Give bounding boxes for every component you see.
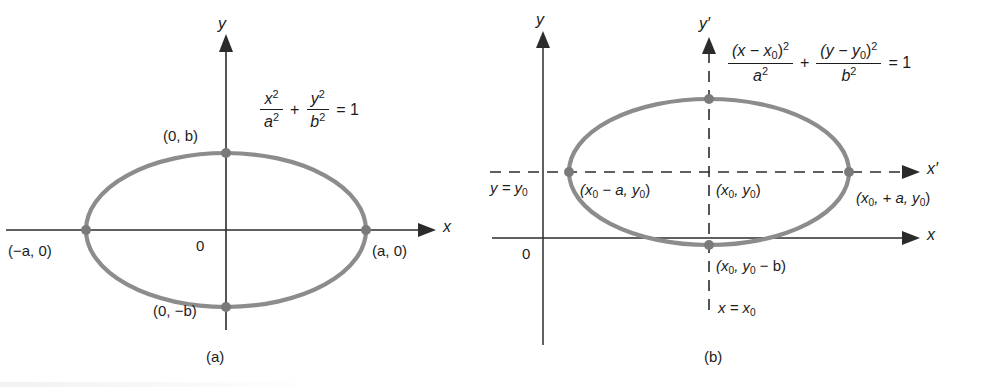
numerator-y-y0-squared: (y − y0)2: [816, 40, 881, 64]
origin-label: 0: [522, 246, 530, 261]
point-right-vertex: [844, 167, 854, 177]
guide-x-subscript: 0: [750, 307, 756, 318]
c-close: ): [756, 181, 761, 198]
var-y: y: [311, 90, 319, 107]
label-left-vertex: (−a, 0): [8, 243, 52, 258]
bv-close: − b): [756, 257, 786, 274]
xprime-axis-label: x′: [927, 161, 938, 177]
bv-part1: (x: [716, 257, 729, 274]
exponent-2: 2: [319, 88, 325, 100]
point-right-vertex: [361, 225, 371, 235]
lv-part1: (x: [580, 181, 593, 198]
panel-a-graphic: [0, 0, 490, 387]
exponent-2: 2: [319, 111, 325, 123]
fraction-x-term: (x − x0)2 a2: [728, 40, 793, 85]
denominator-b2: b2: [306, 110, 329, 131]
panel-b-caption: (b): [704, 349, 722, 364]
fraction-x-over-a: x2 a2: [260, 88, 283, 132]
var-a: a: [264, 113, 273, 130]
bv-mid: , y: [734, 257, 750, 274]
num2-text: (y − y: [820, 42, 860, 59]
label-center: (x0, y0): [716, 182, 761, 200]
origin-label: 0: [196, 238, 204, 253]
var-b: b: [310, 113, 319, 130]
fraction-y-term: (y − y0)2 b2: [816, 40, 881, 85]
page-edge-artifact: [0, 382, 300, 387]
panel-a-equation: x2 a2 + y2 b2 = 1: [258, 88, 359, 132]
point-left-vertex: [564, 167, 574, 177]
panel-b: y x y′ x′ 0 y = y0 x = x0 (x0 − a, y0) (…: [490, 0, 981, 387]
den1-sup: 2: [762, 65, 768, 77]
fraction-y-over-b: y2 b2: [306, 88, 329, 132]
yprime-axis-label: y′: [699, 16, 710, 32]
label-left-vertex: (x0 − a, y0): [580, 182, 650, 200]
numerator-y2: y2: [307, 88, 329, 110]
label-bottom-vertex: (0, −b): [153, 303, 197, 318]
label-right-vertex: (a, 0): [372, 243, 407, 258]
equals-one: = 1: [336, 101, 359, 119]
denominator-a2: a2: [260, 110, 283, 131]
point-top-vertex: [221, 148, 231, 158]
point-bottom-vertex: [704, 240, 714, 250]
guide-x-text: x = x: [718, 299, 750, 316]
plus-operator: +: [800, 54, 809, 72]
equals-one: = 1: [888, 54, 911, 72]
x-axis-arrowhead: [902, 231, 920, 245]
label-right-vertex: (x0, + a, y0): [856, 190, 930, 208]
ellipse-figure-root: y x 0 (0, b) (0, −b) (−a, 0) (a, 0) x2 a…: [0, 0, 981, 387]
label-vertical-guide: x = x0: [718, 300, 756, 318]
rv-part1: (x: [856, 189, 869, 206]
y-axis-label: y: [218, 16, 226, 32]
panel-b-equation: (x − x0)2 a2 + (y − y0)2 b2 = 1: [726, 40, 911, 85]
c-part1: (x: [716, 181, 729, 198]
lv-mid: − a, y: [598, 181, 639, 198]
plus-operator: +: [290, 101, 299, 119]
y-axis-arrowhead: [219, 34, 233, 52]
label-horizontal-guide: y = y0: [490, 180, 528, 198]
numerator-x2: x2: [260, 88, 282, 110]
denominator-b2: b2: [837, 64, 860, 85]
lv-close: ): [645, 181, 650, 198]
label-top-vertex: (0, b): [163, 128, 198, 143]
y-axis-label: y: [536, 12, 544, 28]
exponent-2: 2: [273, 111, 279, 123]
den1-text: a: [753, 67, 762, 84]
guide-y-subscript: 0: [522, 187, 528, 198]
exponent-2: 2: [272, 88, 278, 100]
den2-sup: 2: [850, 65, 856, 77]
x-axis-arrowhead: [418, 223, 436, 237]
y-axis-arrowhead: [536, 31, 550, 48]
x-axis-label: x: [927, 227, 935, 243]
point-left-vertex: [81, 225, 91, 235]
x-axis-label: x: [443, 219, 451, 235]
guide-y-text: y = y: [490, 179, 522, 196]
point-top-vertex: [704, 94, 714, 104]
point-bottom-vertex: [221, 302, 231, 312]
rv-mid: , + a, y: [874, 189, 919, 206]
panel-a-caption: (a): [206, 349, 224, 364]
label-bottom-vertex: (x0, y0 − b): [716, 258, 786, 276]
den2-text: b: [841, 67, 850, 84]
num1-sup: 2: [783, 40, 789, 52]
xprime-axis-arrowhead: [902, 165, 920, 179]
num1-text: (x − x: [732, 42, 772, 59]
yprime-axis-arrowhead: [702, 37, 716, 54]
num2-sup: 2: [871, 40, 877, 52]
c-mid: , y: [734, 181, 750, 198]
rv-close: ): [925, 189, 930, 206]
denominator-a2: a2: [749, 64, 772, 85]
panel-a: y x 0 (0, b) (0, −b) (−a, 0) (a, 0) x2 a…: [0, 0, 490, 387]
numerator-x-x0-squared: (x − x0)2: [728, 40, 793, 64]
